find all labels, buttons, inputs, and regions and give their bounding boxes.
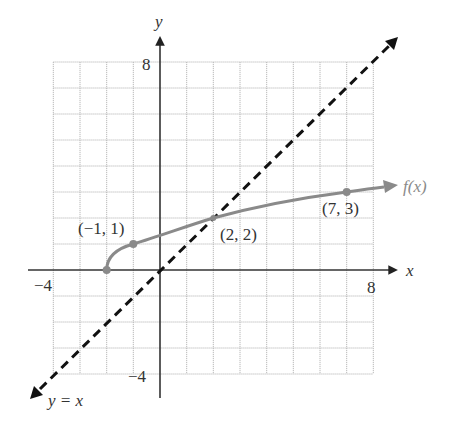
function-arrow-icon: [383, 180, 398, 193]
point-minus2-0: [103, 266, 111, 274]
y-max-tick: 8: [142, 55, 151, 74]
point-minus1-1: [129, 240, 137, 248]
x-axis-label: x: [405, 261, 414, 280]
x-max-tick: 8: [367, 278, 376, 297]
x-min-tick: −4: [34, 276, 53, 295]
point-label-7-3: (7, 3): [322, 199, 359, 218]
point-2-2: [210, 215, 216, 221]
y-axis-label: y: [153, 12, 163, 31]
curve-label: f(x): [403, 177, 427, 196]
identity-line-label: y = x: [46, 391, 84, 410]
point-label-2-2: (2, 2): [220, 225, 257, 244]
function-graph: y x 8 −4 −4 8 (−1, 1) (2, 2) (7, 3) f(x)…: [0, 0, 461, 431]
y-min-tick: −4: [128, 367, 147, 386]
point-7-3: [343, 188, 351, 196]
point-label-minus1-1: (−1, 1): [78, 219, 124, 238]
